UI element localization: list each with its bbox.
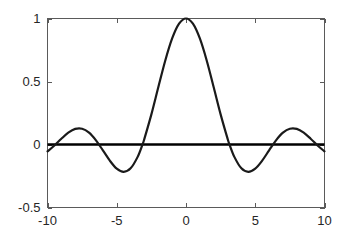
x-tick-label: 0 [182, 213, 189, 228]
y-tick-label: 0 [33, 137, 40, 152]
y-axis-ticks [48, 20, 325, 209]
x-axis-ticks [49, 19, 326, 208]
x-tick-label: -5 [111, 213, 123, 228]
y-tick-label: 1 [33, 11, 40, 26]
y-tick-label: -0.5 [18, 200, 40, 215]
plot-area: -10-50510 -0.500.51 [0, 0, 345, 243]
y-axis-tick-labels: -0.500.51 [18, 11, 40, 215]
x-tick-label: -10 [38, 213, 57, 228]
sinc-curve [48, 19, 325, 172]
x-axis-tick-labels: -10-50510 [38, 213, 332, 228]
axes-box [48, 19, 325, 208]
y-tick-label: 0.5 [22, 74, 40, 89]
figure-canvas: -10-50510 -0.500.51 [0, 0, 345, 243]
x-tick-label: 10 [317, 213, 331, 228]
x-tick-label: 5 [252, 213, 259, 228]
